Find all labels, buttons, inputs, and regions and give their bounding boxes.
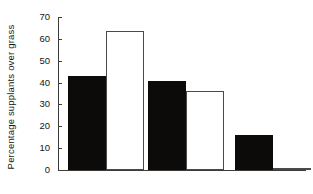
y-axis-line <box>58 17 59 170</box>
y-tick-label: 10 <box>28 143 50 153</box>
x-axis-label-mid-rank: Mid rank <box>136 193 236 194</box>
x-axis-line <box>58 170 306 171</box>
bar-open-distant-rank <box>273 168 311 170</box>
y-tick-mark <box>58 17 62 18</box>
bar-open-close-rank <box>106 31 144 170</box>
bar-filled-distant-rank <box>235 135 273 170</box>
y-tick-mark <box>58 170 62 171</box>
y-axis-title: Percentage supplants over grass <box>0 0 20 194</box>
y-tick-label: 30 <box>28 99 50 109</box>
y-tick-mark <box>58 61 62 62</box>
bar-open-mid-rank <box>186 91 224 170</box>
y-tick-label: 20 <box>28 121 50 131</box>
x-axis-label-distant-rank: Distant rank <box>223 193 313 194</box>
bar-filled-close-rank <box>68 76 106 170</box>
y-tick-mark <box>58 39 62 40</box>
y-tick-label: 50 <box>28 56 50 66</box>
y-tick-mark <box>58 83 62 84</box>
bar-filled-mid-rank <box>148 81 186 170</box>
y-tick-mark <box>58 148 62 149</box>
y-tick-label: 60 <box>28 34 50 44</box>
y-tick-label: 70 <box>28 12 50 22</box>
y-tick-label: 40 <box>28 78 50 88</box>
plot-area: 010203040506070 Close rankMid rankDistan… <box>58 17 308 170</box>
bar-chart-figure: Percentage supplants over grass 01020304… <box>0 0 313 194</box>
y-tick-label: 0 <box>28 165 50 175</box>
y-tick-mark <box>58 104 62 105</box>
y-tick-mark <box>58 126 62 127</box>
